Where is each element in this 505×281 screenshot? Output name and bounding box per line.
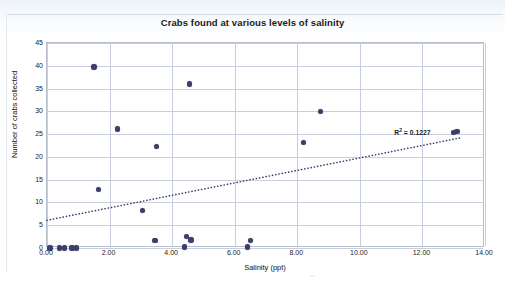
gridline-vertical [485,43,486,246]
x-axis-tick-label: 8.00 [276,249,316,256]
x-axis-tick-label: 0.00 [26,249,66,256]
scatter-chart: Crabs found at various levels of salinit… [0,0,505,281]
x-axis-title: Salinity (ppt) [46,263,484,272]
chart-title: Crabs found at various levels of salinit… [0,17,505,28]
x-axis-tick-label: 2.00 [89,249,129,256]
x-axis-tick-label: 10.00 [339,249,379,256]
y-axis-tick-label: 10 [4,198,46,205]
x-axis-tick-label: 14.00 [464,249,504,256]
data-point [152,238,157,243]
plot-area: R2 = 0.1227 [46,42,484,247]
trendline [47,138,461,221]
trendline-layer [47,43,483,246]
y-axis-tick-labels: 051015202530354045 [0,42,46,247]
y-axis-tick-label: 5 [4,221,46,228]
data-point [454,129,459,134]
data-point [188,237,193,242]
x-axis-tick-label: 12.00 [401,249,441,256]
data-point [187,81,192,86]
data-point [248,238,253,243]
data-point [115,126,120,131]
y-axis-title: Number of crabs collected [10,35,19,195]
data-point [140,208,145,213]
data-point [91,64,96,69]
x-axis-tick-label: 6.00 [214,249,254,256]
x-axis-tick-labels: 0.002.004.006.008.0010.0012.0014.00 [46,249,484,263]
x-axis-tick-label: 4.00 [151,249,191,256]
r-squared-label: R2 = 0.1227 [394,127,430,136]
